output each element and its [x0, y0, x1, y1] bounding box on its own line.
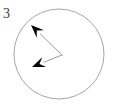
- clock-angle-figure: 3: [0, 0, 115, 106]
- figure-canvas: [0, 0, 115, 106]
- hand-lower-left-group: [32, 55, 62, 67]
- hand-upper-left-group: [31, 25, 62, 55]
- circle-group: [14, 9, 104, 99]
- figure-number-label: 3: [3, 7, 10, 21]
- hand-upper-left-line: [40, 34, 62, 55]
- hand-lower-left-line: [44, 55, 62, 62]
- circle-outline: [14, 9, 104, 99]
